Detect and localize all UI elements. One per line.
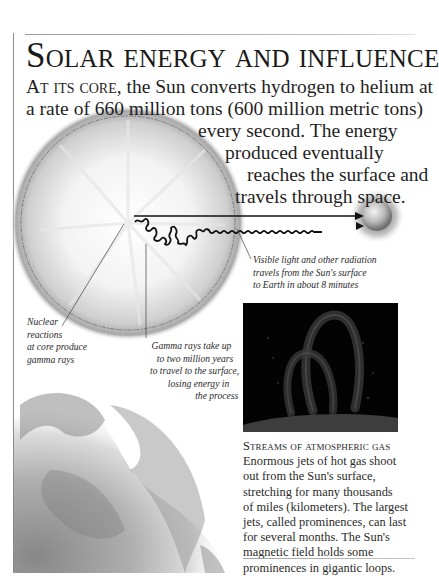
- intro-line-1: At its core, the Sun converts hydrogen t…: [26, 76, 433, 98]
- intro-line-2: a rate of 660 million tons (600 million …: [26, 98, 433, 120]
- sidebar-line: out from the Sun's surface,: [243, 469, 408, 484]
- sidebar-line: stretching for many thousands: [243, 485, 408, 500]
- caption-gamma-rays: Gamma rays take up to two million years …: [150, 340, 239, 403]
- intro-line-5: reaches the surface and: [26, 164, 433, 186]
- caption-nuclear-reactions: Nuclear reactions at core produce gamma …: [27, 316, 87, 366]
- intro-line-3: every second. The energy: [26, 120, 433, 142]
- intro-line-4: produced eventually: [26, 142, 433, 164]
- intro-line-6: travels through space.: [26, 186, 433, 208]
- prominence-loop-icon: [243, 303, 398, 432]
- sidebar-line: Enormous jets of hot gas shoot: [243, 454, 408, 469]
- caption-visible-light: Visible light and other radiation travel…: [253, 254, 376, 292]
- sidebar-line: jets, called prominences, can last: [243, 515, 408, 530]
- page-title: Solar energy and influence: [26, 36, 439, 76]
- sidebar-streams-of-gas: Streams of atmospheric gas Enormous jets…: [243, 439, 408, 576]
- sidebar-line: of miles (kilometers). The largest: [243, 500, 408, 515]
- sidebar-heading: Streams of atmospheric gas: [243, 439, 408, 454]
- intro-lead-in: At its core,: [26, 76, 122, 97]
- bottom-rule: [243, 558, 415, 559]
- solar-surface-illustration: [14, 393, 230, 573]
- sidebar-line: for several months. The Sun's: [243, 530, 408, 545]
- solar-prominence-photo: [243, 303, 398, 432]
- intro-paragraph: At its core, the Sun converts hydrogen t…: [26, 76, 433, 208]
- sidebar-line: prominences in gigantic loops.: [243, 561, 408, 576]
